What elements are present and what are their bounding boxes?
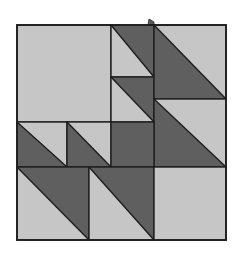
dark-center-square: [111, 122, 154, 167]
quilt-block: [0, 0, 239, 257]
large-light-square: [17, 25, 111, 122]
light-bottom-right-square: [154, 167, 226, 240]
